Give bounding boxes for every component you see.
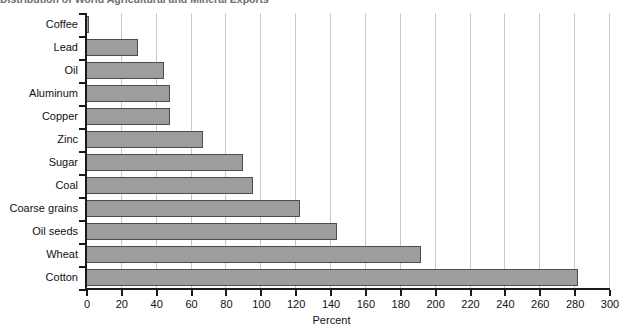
bar[interactable] (86, 39, 138, 56)
bar-row (86, 223, 609, 240)
y-axis-label: Oil (0, 65, 78, 76)
bar[interactable] (86, 108, 170, 125)
x-axis-tick (86, 290, 88, 296)
bar[interactable] (86, 200, 300, 217)
x-axis-tick (539, 290, 541, 296)
x-axis-tick (191, 290, 193, 296)
bar-row (86, 16, 609, 33)
x-axis-title: Percent (0, 314, 633, 326)
x-axis-tick (330, 290, 332, 296)
x-axis-tick (260, 290, 262, 296)
bar-row (86, 269, 609, 286)
bar-row (86, 154, 609, 171)
x-axis-tick (365, 290, 367, 296)
bar-row (86, 85, 609, 102)
bar[interactable] (86, 85, 170, 102)
x-axis-tick (504, 290, 506, 296)
bar-row (86, 108, 609, 125)
y-axis-label: Copper (0, 111, 78, 122)
bar[interactable] (86, 177, 253, 194)
bar-row (86, 246, 609, 263)
bar[interactable] (86, 62, 164, 79)
bar-row (86, 131, 609, 148)
bar[interactable] (86, 223, 337, 240)
y-axis-tick (79, 289, 86, 291)
y-axis-tick (79, 151, 86, 153)
y-axis-tick (79, 82, 86, 84)
y-axis-tick (79, 105, 86, 107)
x-axis-tick (470, 290, 472, 296)
y-axis-tick (79, 13, 86, 15)
y-axis-label: Oil seeds (0, 226, 78, 237)
bar-row (86, 200, 609, 217)
y-axis-tick (79, 128, 86, 130)
y-axis-tick (79, 266, 86, 268)
y-axis-tick (79, 174, 86, 176)
y-axis-label: Coal (0, 180, 78, 191)
x-axis-tick (225, 290, 227, 296)
y-axis-tick (79, 197, 86, 199)
y-axis-tick (79, 36, 86, 38)
bar-row (86, 39, 609, 56)
y-axis-tick (79, 220, 86, 222)
y-axis-label: Coarse grains (0, 203, 78, 214)
y-axis-label: Wheat (0, 249, 78, 260)
gridline (609, 13, 610, 289)
y-axis-label: Zinc (0, 134, 78, 145)
x-axis-line (85, 288, 610, 290)
y-axis-label: Lead (0, 42, 78, 53)
y-axis-tick (79, 243, 86, 245)
bar-chart: CoffeeLeadOilAluminumCopperZincSugarCoal… (0, 0, 633, 333)
bar-row (86, 62, 609, 79)
y-axis-label: Aluminum (0, 88, 78, 99)
x-axis-tick-label: 300 (590, 298, 630, 310)
y-axis-label: Coffee (0, 19, 78, 30)
x-axis-tick (435, 290, 437, 296)
bar[interactable] (86, 269, 578, 286)
y-axis-tick (79, 59, 86, 61)
x-axis-tick (574, 290, 576, 296)
bar-row (86, 177, 609, 194)
bar[interactable] (86, 246, 421, 263)
x-axis-tick (156, 290, 158, 296)
bar[interactable] (86, 131, 203, 148)
x-axis-tick (609, 290, 611, 296)
x-axis-title-text: Percent (313, 314, 351, 326)
x-axis-tick (400, 290, 402, 296)
x-axis-tick (295, 290, 297, 296)
y-axis-label: Cotton (0, 272, 78, 283)
y-axis-label: Sugar (0, 157, 78, 168)
x-axis-tick (121, 290, 123, 296)
y-axis-labels: CoffeeLeadOilAluminumCopperZincSugarCoal… (0, 0, 78, 333)
plot-area (86, 13, 609, 289)
bar[interactable] (86, 154, 243, 171)
